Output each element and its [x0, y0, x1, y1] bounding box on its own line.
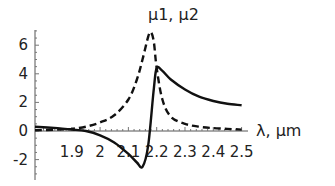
- x-tick-label: 2: [95, 143, 105, 161]
- x-tick-label: 1.9: [60, 143, 84, 161]
- x-axis-title: λ, μm: [256, 121, 301, 140]
- x-tick-labels: 1.922.12.22.32.42.5: [60, 143, 254, 161]
- y-tick-label: 6: [18, 36, 28, 54]
- y-tick-label: 2: [18, 93, 28, 111]
- y-tick-label: -2: [13, 151, 28, 169]
- x-tick-label: 2.4: [201, 143, 225, 161]
- y-axis-title: μ1, μ2: [148, 5, 199, 24]
- x-tick-label: 2.3: [173, 143, 197, 161]
- y-tick-label: 0: [18, 122, 28, 140]
- y-tick-label: 4: [18, 65, 28, 83]
- series-mu2-dashed-line: [35, 32, 242, 130]
- y-tick-labels: 6420-2: [13, 36, 28, 168]
- chart-canvas: 6420-2 1.922.12.22.32.42.5 μ1, μ2 λ, μm: [0, 0, 335, 186]
- x-tick-label: 2.5: [230, 143, 254, 161]
